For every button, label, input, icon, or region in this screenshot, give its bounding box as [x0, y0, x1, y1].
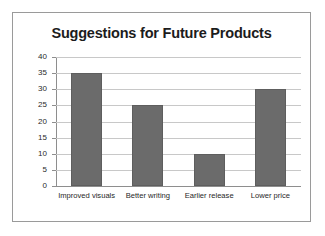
y-axis-tick-label: 40: [17, 53, 47, 61]
y-axis-tick-label: 25: [17, 101, 47, 109]
y-axis-tick-label: 15: [17, 134, 47, 142]
y-axis-tick-label: 20: [17, 118, 47, 126]
y-axis-tick-label: 30: [17, 85, 47, 93]
bar: [194, 154, 225, 186]
y-axis-tick-label: 35: [17, 69, 47, 77]
chart-title: Suggestions for Future Products: [13, 25, 310, 41]
x-axis-category-label: Earlier release: [179, 191, 240, 200]
gridline: [56, 57, 301, 58]
bar: [132, 105, 163, 186]
plot-area: [56, 57, 301, 186]
x-axis-category-label: Improved visuals: [56, 191, 117, 200]
x-axis-category-label: Lower price: [240, 191, 301, 200]
x-axis-category-label: Better writing: [117, 191, 178, 200]
chart-figure: Suggestions for Future Products 40353025…: [12, 12, 311, 222]
bar: [255, 89, 286, 186]
gridline: [56, 186, 301, 187]
y-axis-tick-label: 5: [17, 166, 47, 174]
y-axis-tick-label: 0: [17, 182, 47, 190]
y-axis-tick-label: 10: [17, 150, 47, 158]
bar: [71, 73, 102, 186]
